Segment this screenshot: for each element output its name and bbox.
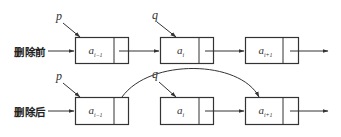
- diagram-canvas: 删除前 删除后 p q p q ai−1 ai ai+1 ai−1 ai ai+…: [0, 0, 341, 137]
- pointer-q-label: q: [152, 67, 158, 82]
- node-data-label: ai−1: [76, 44, 115, 58]
- node-data-label: ai+1: [246, 44, 285, 58]
- node-data-label: ai+1: [246, 104, 285, 118]
- pointer-q-arrow: [157, 22, 176, 37]
- pointer-p-label: p: [56, 69, 62, 84]
- pointer-p-arrow: [63, 83, 80, 97]
- pointer-p-label: p: [56, 9, 62, 24]
- row-label-before: 删除前: [14, 44, 46, 59]
- pointer-q-label: q: [152, 8, 158, 23]
- node-data-label: ai−1: [76, 104, 115, 118]
- pointer-q-arrow: [159, 82, 176, 97]
- row-label-after: 删除后: [14, 104, 46, 119]
- node-data-label: ai: [161, 104, 200, 118]
- pointer-p-arrow: [63, 23, 80, 37]
- bypass-link-arrow: [122, 68, 259, 97]
- node-data-label: ai: [161, 44, 200, 58]
